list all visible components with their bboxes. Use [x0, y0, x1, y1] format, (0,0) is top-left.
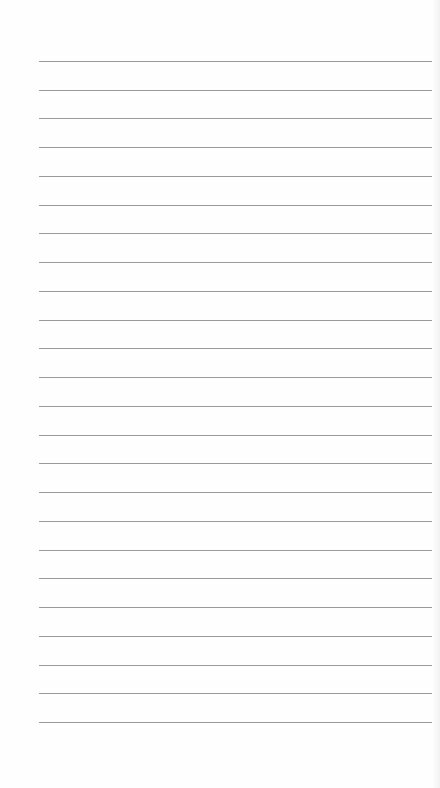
lined-paper-page [0, 0, 440, 788]
ruled-line [39, 463, 432, 464]
ruled-line [39, 90, 432, 91]
paper-edge-shadow [432, 0, 440, 788]
ruled-line [39, 636, 432, 637]
ruled-line [39, 233, 432, 234]
ruled-line [39, 205, 432, 206]
ruled-line [39, 348, 432, 349]
ruled-line [39, 61, 432, 62]
ruled-line [39, 147, 432, 148]
ruled-line [39, 550, 432, 551]
ruled-line [39, 262, 432, 263]
ruled-line [39, 377, 432, 378]
ruled-line [39, 521, 432, 522]
ruled-line [39, 492, 432, 493]
ruled-line [39, 607, 432, 608]
ruled-line [39, 435, 432, 436]
ruled-line [39, 176, 432, 177]
ruled-line [39, 291, 432, 292]
ruled-line [39, 320, 432, 321]
ruled-line [39, 693, 432, 694]
ruled-line [39, 722, 432, 723]
ruled-line [39, 665, 432, 666]
ruled-line [39, 118, 432, 119]
ruled-line [39, 578, 432, 579]
ruled-line [39, 406, 432, 407]
